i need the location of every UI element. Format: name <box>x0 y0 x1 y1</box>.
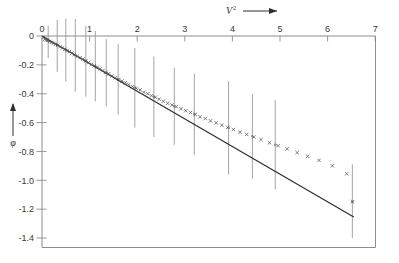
data-point <box>146 92 149 95</box>
y-axis-title: φ <box>10 137 16 148</box>
error-bar-center <box>274 144 276 146</box>
data-point <box>131 85 134 88</box>
data-point <box>142 91 145 94</box>
x-tick-label: 5 <box>277 24 282 34</box>
y-axis-title-group: φ <box>10 103 16 148</box>
data-point <box>238 130 241 133</box>
x-tick-label: 2 <box>135 24 140 34</box>
data-point <box>232 128 235 131</box>
data-point <box>259 138 262 141</box>
data-point <box>285 147 288 150</box>
data-point <box>209 119 212 122</box>
data-point <box>166 102 169 105</box>
data-point <box>317 159 320 162</box>
data-point <box>220 123 223 126</box>
x-tick-label: 3 <box>182 24 187 34</box>
data-point <box>345 172 348 175</box>
x-tick-label: 0 <box>39 24 44 34</box>
x-tick-label: 7 <box>373 24 378 34</box>
origin-label: 0 <box>29 31 34 41</box>
data-point <box>184 109 187 112</box>
data-point <box>157 98 160 101</box>
data-point <box>215 121 218 124</box>
data-point <box>150 94 153 97</box>
y-tick-label: -0.6 <box>18 118 34 128</box>
data-point <box>331 164 334 167</box>
y-tick-label: -0.8 <box>18 147 34 157</box>
data-point <box>179 107 182 110</box>
x-tick-label: 6 <box>325 24 330 34</box>
data-point <box>170 103 173 106</box>
y-tick-label: -1.2 <box>18 204 34 214</box>
data-point <box>204 117 207 120</box>
y-axis-arrow-head <box>10 103 16 111</box>
data-point <box>276 144 279 147</box>
data-point <box>138 88 141 91</box>
y-tick-label: -0.4 <box>18 89 34 99</box>
data-point <box>268 141 271 144</box>
plot-frame <box>42 36 376 248</box>
y-tick-label: -1.0 <box>18 176 34 186</box>
x-tick-label: 1 <box>87 24 92 34</box>
data-points-group <box>42 36 354 203</box>
data-point <box>245 133 248 136</box>
x-axis-arrow-head <box>269 8 277 14</box>
x-axis-ticks: 01234567 <box>39 24 377 42</box>
x-axis-title-group: V2 <box>226 5 277 17</box>
data-point <box>162 100 165 103</box>
data-point <box>295 151 298 154</box>
origin-label-group: 0 <box>29 31 34 41</box>
figure-container: 01234567 -0.2-0.4-0.6-0.8-1.0-1.2-1.4 V2… <box>0 0 399 263</box>
y-tick-label: -1.4 <box>18 233 34 243</box>
data-point <box>306 155 309 158</box>
data-point <box>189 111 192 114</box>
y-tick-label: -0.2 <box>18 60 34 70</box>
x-tick-label: 4 <box>230 24 235 34</box>
x-axis-title-exponent: 2 <box>233 5 236 11</box>
data-point <box>198 115 201 118</box>
scatter-plot-chart: 01234567 -0.2-0.4-0.6-0.8-1.0-1.2-1.4 V2… <box>0 0 399 263</box>
